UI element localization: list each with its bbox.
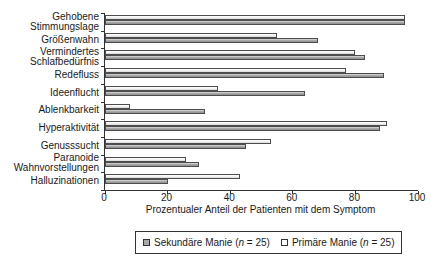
- x-axis-tick-label: 20: [152, 192, 182, 203]
- legend-item: Primäre Manie (n = 25): [281, 237, 395, 248]
- y-axis-tick: [101, 84, 104, 85]
- x-axis-tick-label: 40: [214, 192, 244, 203]
- bar-sekundaer: [105, 20, 405, 25]
- bar-sekundaer: [105, 38, 318, 43]
- x-axis-title: Prozentualer Anteil der Patienten mit de…: [104, 204, 417, 215]
- bar-sekundaer: [105, 179, 168, 184]
- bar-sekundaer: [105, 73, 384, 78]
- category-label: Halluzinationen: [0, 172, 99, 190]
- legend-item: Sekundäre Manie (n = 25): [143, 237, 270, 248]
- y-axis-tick: [101, 66, 104, 67]
- bar-sekundaer: [105, 126, 380, 131]
- bar-sekundaer: [105, 55, 365, 60]
- x-axis-tick-label: 80: [339, 192, 369, 203]
- y-axis-tick: [101, 48, 104, 49]
- bar-sekundaer: [105, 109, 205, 114]
- y-axis-tick: [101, 102, 104, 103]
- category-label: Redefluss: [0, 66, 99, 84]
- plot-area: [104, 13, 418, 191]
- category-label: Gehobene Stimmungslage: [0, 13, 99, 31]
- category-label: Ablenkbarkeit: [0, 102, 99, 120]
- y-axis-tick: [101, 137, 104, 138]
- bar-sekundaer: [105, 144, 246, 149]
- legend-swatch-primaer: [281, 239, 288, 246]
- legend-label: Sekundäre Manie (n = 25): [154, 237, 270, 248]
- y-axis-tick: [101, 155, 104, 156]
- bar-sekundaer: [105, 91, 305, 96]
- x-axis-tick-label: 0: [89, 192, 119, 203]
- bar-chart-figure: Prozentualer Anteil der Patienten mit de…: [0, 0, 435, 259]
- legend-swatch-sekundaer: [143, 239, 150, 246]
- bar-sekundaer: [105, 162, 199, 167]
- x-axis-tick-label: 60: [277, 192, 307, 203]
- category-label: Ideenflucht: [0, 84, 99, 102]
- legend-box: Sekundäre Manie (n = 25)Primäre Manie (n…: [135, 231, 402, 254]
- y-axis-tick: [101, 31, 104, 32]
- category-label: Paranoide Wahnvorstellungen: [0, 155, 99, 173]
- y-axis-tick: [101, 13, 104, 14]
- category-label: Hyperaktivität: [0, 119, 99, 137]
- legend-label: Primäre Manie (n = 25): [292, 237, 395, 248]
- category-label: Vermindertes Schlafbedürfnis: [0, 48, 99, 66]
- y-axis-tick: [101, 172, 104, 173]
- x-axis-tick-label: 100: [402, 192, 432, 203]
- y-axis-tick: [101, 119, 104, 120]
